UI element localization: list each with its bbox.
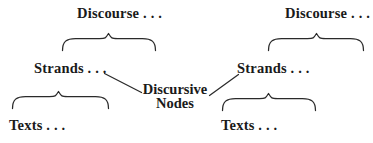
- brace-lower-left: [13, 92, 109, 109]
- connector-left: [105, 74, 142, 93]
- label-discursive-nodes: Discursive Nodes: [141, 82, 209, 110]
- brace-upper-left: [63, 34, 156, 51]
- label-texts-left: Texts . . .: [9, 117, 65, 134]
- label-strands-right: Strands . . .: [237, 60, 310, 77]
- label-discourse-right: Discourse . . .: [285, 5, 370, 22]
- discursive-nodes-line-1: Discursive: [141, 82, 209, 96]
- connector-right: [210, 75, 239, 96]
- label-strands-left: Strands . . .: [34, 60, 107, 77]
- discursive-nodes-line-2: Nodes: [141, 96, 209, 110]
- brace-lower-right: [223, 94, 316, 111]
- brace-upper-right: [269, 34, 364, 51]
- label-discourse-left: Discourse . . .: [77, 5, 162, 22]
- label-texts-right: Texts . . .: [221, 117, 277, 134]
- discursive-nodes-figure: Discourse . . . Discourse . . . Strands …: [0, 0, 373, 143]
